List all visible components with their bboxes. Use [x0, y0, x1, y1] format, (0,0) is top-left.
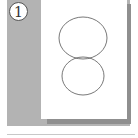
- step-number-badge: 1: [9, 2, 28, 21]
- step-number: 1: [14, 5, 23, 19]
- top-circle: [59, 17, 107, 59]
- bottom-circle: [62, 57, 104, 95]
- divider-line: [7, 134, 135, 135]
